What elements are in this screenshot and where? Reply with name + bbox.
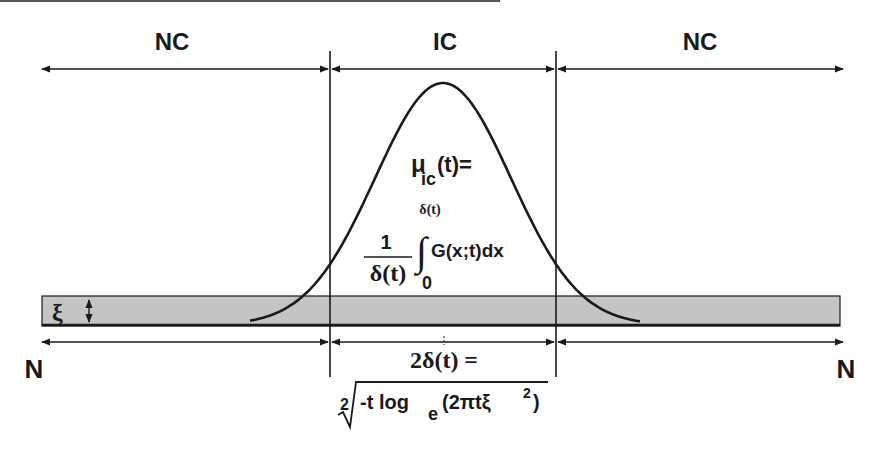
integrand: G(x;t)dx <box>431 240 504 261</box>
delta-lhs: 2δ(t) = <box>410 347 478 373</box>
integral-upper-limit: δ(t) <box>419 202 441 218</box>
mu-subscript: ic <box>421 169 436 189</box>
gaussian-region-diagram: NC IC NC N N ξ μ ic (t)= 1 δ(t) δ(t) ∫ 0… <box>0 0 877 457</box>
root-index: 2 <box>340 396 349 413</box>
formula-delta: 2δ(t) = 2 -t log e (2πtξ 2 ) <box>338 347 548 427</box>
label-left-nc: NC <box>155 28 190 55</box>
label-bottom-left-n: N <box>25 354 44 384</box>
label-center-ic: IC <box>433 28 457 55</box>
formula-mu-ic: μ ic (t)= 1 δ(t) δ(t) ∫ 0 G(x;t)dx <box>364 150 504 293</box>
integral-lower-limit: 0 <box>422 273 432 293</box>
label-bottom-right-n: N <box>837 354 856 384</box>
integral-symbol: ∫ <box>413 229 430 276</box>
xi-band <box>42 296 840 326</box>
fraction-denominator: δ(t) <box>370 260 406 286</box>
gaussian-curve <box>250 83 640 321</box>
radicand-sub: e <box>428 404 438 424</box>
xi-symbol: ξ <box>52 299 63 325</box>
label-right-nc: NC <box>683 28 718 55</box>
radicand-sup: 2 <box>523 385 531 401</box>
mu-rest: (t)= <box>437 152 472 177</box>
radicand-pre: -t log <box>360 391 409 413</box>
fraction-numerator: 1 <box>380 231 391 253</box>
radicand-post: (2πtξ <box>442 391 491 413</box>
radicand-close: ) <box>533 391 540 413</box>
